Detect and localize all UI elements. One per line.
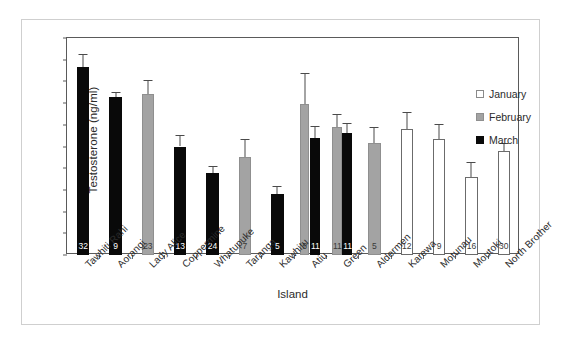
error-bar-cap: [435, 124, 444, 125]
legend-swatch-icon: [476, 136, 484, 144]
error-bar: [342, 123, 352, 134]
bar: 11: [342, 133, 352, 255]
bar-sample-size-label: 32: [78, 242, 88, 251]
error-bar-stem: [244, 139, 245, 157]
error-bar-stem: [406, 112, 407, 129]
error-bar-stem: [374, 127, 375, 143]
error-bar: [310, 126, 320, 138]
bar-sample-size-label: 11: [311, 242, 319, 251]
error-bar: [368, 127, 380, 143]
error-bar-stem: [336, 114, 337, 127]
error-bar: [300, 73, 310, 104]
error-bar-cap: [208, 166, 217, 167]
legend-swatch-icon: [476, 90, 484, 98]
bar: 32: [77, 67, 89, 255]
error-bar: [271, 186, 283, 195]
error-bar-cap: [343, 123, 352, 124]
error-bar-cap: [143, 80, 152, 81]
error-bar: [465, 162, 477, 177]
error-bar: [433, 124, 445, 139]
error-bar-stem: [147, 80, 148, 94]
bar: 5: [368, 143, 380, 255]
error-bar: [401, 112, 413, 129]
bar-sample-size-label: 5: [369, 242, 379, 251]
error-bar-cap: [310, 126, 319, 127]
error-bar-cap: [300, 73, 309, 74]
legend-label: March: [489, 134, 518, 146]
bar: 11: [332, 127, 342, 255]
y-tick-mark: [63, 168, 67, 169]
error-bar-stem: [277, 186, 278, 195]
error-bar-stem: [314, 126, 315, 138]
error-bar-stem: [180, 135, 181, 147]
bar-sample-size-label: 11: [343, 242, 351, 251]
error-bar-cap: [176, 135, 185, 136]
y-tick-mark: [63, 124, 67, 125]
y-tick-mark: [63, 81, 67, 82]
bar: 11: [310, 138, 320, 255]
error-bar-cap: [332, 114, 341, 115]
bar: 5: [300, 104, 310, 255]
y-tick-mark: [63, 233, 67, 234]
error-bar-stem: [347, 123, 348, 134]
legend-item: February: [476, 108, 531, 126]
x-axis-title: Island: [66, 288, 519, 300]
bar: 9: [433, 139, 445, 255]
error-bar: [142, 80, 154, 94]
y-tick-mark: [63, 38, 67, 39]
y-tick-mark: [63, 103, 67, 104]
error-bar: [77, 54, 89, 67]
chart-legend: JanuaryFebruaryMarch: [476, 85, 531, 154]
error-bar-cap: [79, 54, 88, 55]
plot-area: Testosterone (ng/ml) 02468101214161820 3…: [66, 37, 519, 254]
error-bar: [206, 166, 218, 173]
error-bar: [174, 135, 186, 147]
y-tick-mark: [63, 59, 67, 60]
error-bar-stem: [304, 73, 305, 104]
legend-label: January: [489, 88, 526, 100]
legend-item: March: [476, 131, 531, 149]
error-bar-stem: [439, 124, 440, 139]
y-tick-mark: [63, 211, 67, 212]
error-bar: [239, 139, 251, 157]
error-bar: [109, 92, 121, 96]
legend-swatch-icon: [476, 113, 484, 121]
legend-label: February: [489, 111, 531, 123]
error-bar-cap: [370, 127, 379, 128]
error-bar-cap: [111, 92, 120, 93]
bar-sample-size-label: 11: [333, 242, 341, 251]
error-bar-stem: [83, 54, 84, 67]
y-tick-mark: [63, 189, 67, 190]
error-bar-stem: [471, 162, 472, 177]
error-bar-cap: [240, 139, 249, 140]
figure-container: Testosterone (ng/ml) 02468101214161820 3…: [0, 0, 562, 356]
error-bar: [332, 114, 342, 127]
y-tick-mark: [63, 255, 67, 256]
legend-item: January: [476, 85, 531, 103]
y-tick-mark: [63, 146, 67, 147]
error-bar-cap: [467, 162, 476, 163]
error-bar-cap: [402, 112, 411, 113]
error-bar-cap: [273, 186, 282, 187]
bar: 23: [142, 94, 154, 255]
